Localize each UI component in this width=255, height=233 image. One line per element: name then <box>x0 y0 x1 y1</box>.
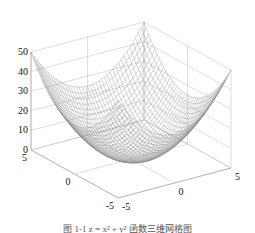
z-tick-label: 10 <box>18 124 28 135</box>
z-tick-label: 20 <box>18 105 28 116</box>
y-tick-label: -5 <box>106 200 114 211</box>
z-tick-label: 30 <box>18 85 28 96</box>
x-tick-label: 5 <box>235 171 240 182</box>
z-tick-label: 40 <box>18 66 28 77</box>
y-tick-label: 5 <box>22 152 27 163</box>
figure-caption: 图 1-1 z = x² + y² 函数三维网格图 <box>0 222 255 233</box>
z-tick-label: 50 <box>18 46 28 57</box>
surface-plot: 01020304050-505-505 <box>0 0 255 233</box>
x-tick-label: 0 <box>179 186 184 197</box>
y-tick-label: 0 <box>66 176 71 187</box>
x-axis-line <box>118 168 231 198</box>
y-axis-line <box>31 150 118 198</box>
x-tick-label: -5 <box>122 201 130 212</box>
